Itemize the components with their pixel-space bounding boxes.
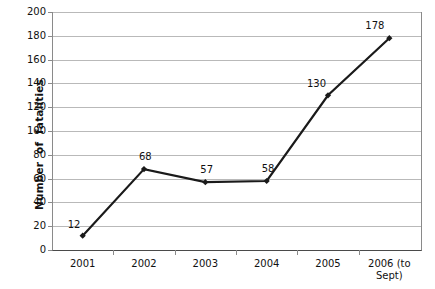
- x-tick-mark: [359, 250, 360, 255]
- y-tick-label: 120: [27, 102, 46, 112]
- data-point-label: 68: [139, 152, 152, 162]
- y-axis-ticks: 200180160140120100806040200: [0, 12, 52, 250]
- fatalities-line-chart: Number of fatalities 2001801601401201008…: [0, 0, 435, 289]
- gridline: [53, 60, 421, 61]
- gridline: [53, 202, 421, 203]
- data-point-label: 130: [307, 79, 326, 89]
- y-tick-label: 200: [27, 7, 46, 17]
- x-axis-ticks: 200120022003200420052006 (to Sept): [52, 250, 422, 289]
- y-tick-label: 140: [27, 78, 46, 88]
- y-tick-label: 80: [33, 150, 46, 160]
- gridline: [53, 107, 421, 108]
- gridline: [53, 83, 421, 84]
- x-tick-mark: [297, 250, 298, 255]
- y-tick-label: 100: [27, 126, 46, 136]
- y-tick-label: 20: [33, 221, 46, 231]
- x-tick-mark: [175, 250, 176, 255]
- y-tick-label: 160: [27, 55, 46, 65]
- data-point-label: 58: [262, 164, 275, 174]
- gridline: [53, 12, 421, 13]
- gridline: [53, 226, 421, 227]
- x-tick-label: 2006 (to Sept): [349, 258, 429, 282]
- y-tick-label: 60: [33, 174, 46, 184]
- gridline: [53, 36, 421, 37]
- gridline: [53, 179, 421, 180]
- x-tick-mark: [113, 250, 114, 255]
- data-point-label: 12: [68, 220, 81, 230]
- y-tick-label: 0: [40, 245, 46, 255]
- y-tick-label: 40: [33, 197, 46, 207]
- gridline: [53, 131, 421, 132]
- plot-area: [52, 12, 422, 251]
- x-tick-mark: [236, 250, 237, 255]
- gridline: [53, 155, 421, 156]
- data-point-label: 57: [200, 165, 213, 175]
- y-tick-label: 180: [27, 31, 46, 41]
- data-point-label: 178: [365, 21, 384, 31]
